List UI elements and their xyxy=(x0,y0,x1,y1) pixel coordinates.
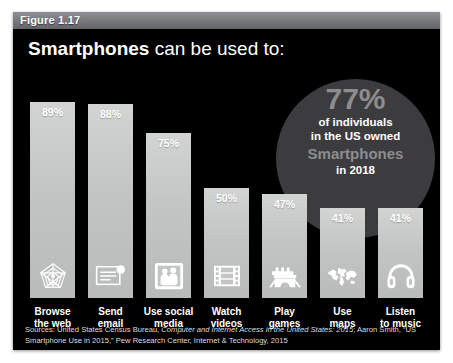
category-label-line: Send xyxy=(82,306,140,318)
bar-browse-the-web[interactable]: 89% xyxy=(30,102,75,298)
category-label-line: to music xyxy=(372,318,430,330)
bar-column: 50% xyxy=(204,188,249,298)
bar-column: 47% xyxy=(262,194,307,298)
bar-use-social-media[interactable]: 75% xyxy=(146,133,191,298)
bar-value-label: 47% xyxy=(262,198,307,210)
category-label-use-social-media: Use socialmedia xyxy=(140,306,198,330)
game-castle-icon xyxy=(262,260,307,292)
category-label-send-email: Sendemail xyxy=(82,306,140,330)
bar-column: 89% xyxy=(30,102,75,298)
bar-column: 41% xyxy=(378,208,423,298)
film-strip-icon xyxy=(204,260,249,292)
category-label-line: Listen xyxy=(372,306,430,318)
category-label-line: maps xyxy=(314,318,372,330)
category-label-line: the web xyxy=(24,318,82,330)
category-label-line: Play xyxy=(256,306,314,318)
bar-play-games[interactable]: 47% xyxy=(262,194,307,298)
world-map-icon xyxy=(320,260,365,292)
bar-column: 41% xyxy=(320,208,365,298)
category-label-line: Watch xyxy=(198,306,256,318)
globe-web-icon xyxy=(30,260,75,292)
email-envelope-icon xyxy=(88,260,133,292)
category-label-line: Use xyxy=(314,306,372,318)
category-label-line: Use social xyxy=(140,306,198,318)
category-label-line: Browse xyxy=(24,306,82,318)
bar-value-label: 50% xyxy=(204,192,249,204)
bar-send-email[interactable]: 88% xyxy=(88,104,133,298)
bar-chart: 89%Browsethe web88%Sendemail75%Use socia… xyxy=(13,29,440,350)
category-label-use-maps: Usemaps xyxy=(314,306,372,330)
category-label-line: media xyxy=(140,318,198,330)
poster-area: Smartphones can be used to: 77% of indiv… xyxy=(13,29,440,350)
category-label-browse-the-web: Browsethe web xyxy=(24,306,82,330)
bar-value-label: 41% xyxy=(320,212,365,224)
category-label-line: videos xyxy=(198,318,256,330)
category-label-listen-to-music: Listento music xyxy=(372,306,430,330)
figure-header-bar: Figure 1.17 xyxy=(13,12,440,29)
category-label-line: games xyxy=(256,318,314,330)
bar-value-label: 89% xyxy=(30,106,75,118)
bar-use-maps[interactable]: 41% xyxy=(320,208,365,298)
bar-watch-videos[interactable]: 50% xyxy=(204,188,249,298)
bar-column: 88% xyxy=(88,104,133,298)
headphones-icon xyxy=(378,260,423,292)
bar-value-label: 41% xyxy=(378,212,423,224)
bar-value-label: 88% xyxy=(88,108,133,120)
figure-number-label: Figure 1.17 xyxy=(20,14,80,26)
category-label-play-games: Playgames xyxy=(256,306,314,330)
bar-value-label: 75% xyxy=(146,137,191,149)
category-label-watch-videos: Watchvideos xyxy=(198,306,256,330)
bar-column: 75% xyxy=(146,133,191,298)
category-label-line: email xyxy=(82,318,140,330)
figure-container: Figure 1.17 Smartphones can be used to: … xyxy=(13,12,440,350)
social-people-icon xyxy=(146,260,191,292)
bar-listen-to-music[interactable]: 41% xyxy=(378,208,423,298)
